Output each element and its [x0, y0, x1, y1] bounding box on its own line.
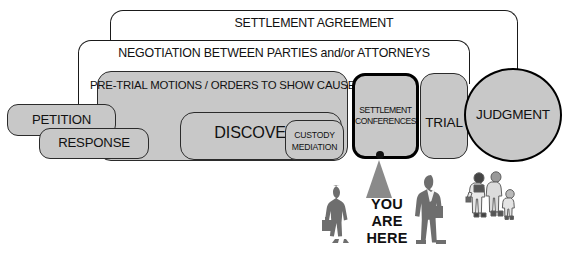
stage-trial[interactable]: TRIAL [420, 73, 468, 159]
you-are-here-line1: YOU [361, 196, 413, 213]
stage-response-label: RESPONSE [58, 129, 130, 150]
you-are-here-line2: ARE [361, 213, 413, 230]
stage-trial-label: TRIAL [425, 74, 463, 130]
you-are-here-marker: YOU ARE HERE [361, 196, 413, 247]
stage-settlement-agreement-label: SETTLEMENT AGREEMENT [235, 11, 394, 30]
stage-response[interactable]: RESPONSE [39, 128, 149, 159]
man-in-suit-icon [413, 173, 449, 245]
case-process-flow-diagram: SETTLEMENT AGREEMENT NEGOTIATION BETWEEN… [0, 0, 570, 261]
woman-with-briefcase-icon [318, 183, 360, 245]
stage-settlement-conferences[interactable]: SETTLEMENT CONFERENCES [352, 73, 419, 159]
stage-settlement-conferences-label-line1: SETTLEMENT [359, 105, 411, 115]
stage-custody-mediation-label-line2: MEDIATION [292, 142, 337, 152]
pointer-dot-icon [376, 151, 384, 159]
stage-custody-mediation-label-line1: CUSTODY [294, 130, 334, 140]
stage-pre-trial-motions-label: PRE-TRIAL MOTIONS / ORDERS TO SHOW CAUSE [90, 72, 355, 92]
stage-custody-mediation-label: CUSTODY MEDIATION [292, 121, 337, 153]
stage-judgment-label: JUDGMENT [476, 108, 550, 122]
family-group-icon [464, 171, 522, 221]
pointer-cone-icon [366, 160, 392, 198]
stage-settlement-conferences-label: SETTLEMENT CONFERENCES [355, 76, 416, 127]
stage-petition-label: PETITION [32, 105, 91, 127]
you-are-here-line3: HERE [361, 230, 413, 247]
stage-negotiation-label: NEGOTIATION BETWEEN PARTIES and/or ATTOR… [118, 41, 430, 60]
stage-custody-mediation[interactable]: CUSTODY MEDIATION [285, 120, 344, 160]
stage-judgment[interactable]: JUDGMENT [464, 68, 562, 162]
stage-settlement-conferences-label-line2: CONFERENCES [355, 116, 416, 126]
